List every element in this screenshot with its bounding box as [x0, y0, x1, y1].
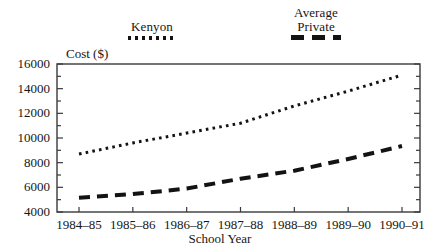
y-axis-tick-label: 12000 — [6, 105, 50, 121]
series-line-kenyon — [79, 75, 402, 154]
plot-area — [0, 0, 440, 252]
cost-comparison-line-chart: Kenyon Average Private Cost ($) School Y… — [0, 0, 440, 252]
y-axis-tick-label: 8000 — [6, 155, 50, 171]
y-axis-tick-label: 10000 — [6, 130, 50, 146]
series-line-average-private — [79, 146, 402, 198]
x-axis-tick-label: 1990–91 — [372, 217, 432, 233]
y-axis-tick-label: 14000 — [6, 81, 50, 97]
y-axis-tick-label: 6000 — [6, 179, 50, 195]
y-axis-tick-label: 16000 — [6, 56, 50, 72]
x-axis-tick-label: 1984–85 — [49, 217, 109, 233]
x-axis-tick-label: 1989–90 — [318, 217, 378, 233]
x-axis-tick-label: 1985–86 — [103, 217, 163, 233]
y-axis-tick-label: 4000 — [6, 204, 50, 220]
x-axis-tick-label: 1987–88 — [211, 217, 271, 233]
x-axis-tick-label: 1986–87 — [157, 217, 217, 233]
x-axis-tick-label: 1988–89 — [264, 217, 324, 233]
